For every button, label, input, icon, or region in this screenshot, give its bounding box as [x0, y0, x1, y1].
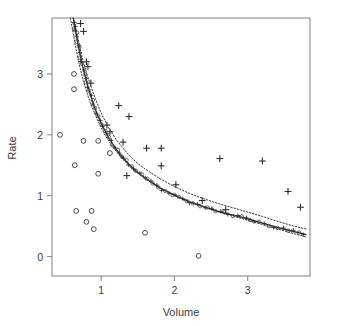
y-axis-title: Rate [6, 136, 18, 159]
x-tick-label: 1 [98, 284, 104, 296]
plot-canvas: 123 0123 Volume Rate [0, 0, 338, 326]
y-tick-label: 3 [37, 68, 43, 80]
x-tick-label: 3 [245, 284, 251, 296]
y-tick-label: 0 [37, 251, 43, 263]
scatter-plot-figure: 123 0123 Volume Rate [0, 0, 338, 326]
y-tick-label: 1 [37, 190, 43, 202]
x-axis-title: Volume [163, 306, 200, 318]
plot-background [0, 0, 338, 326]
x-tick-label: 2 [171, 284, 177, 296]
y-tick-label: 2 [37, 129, 43, 141]
